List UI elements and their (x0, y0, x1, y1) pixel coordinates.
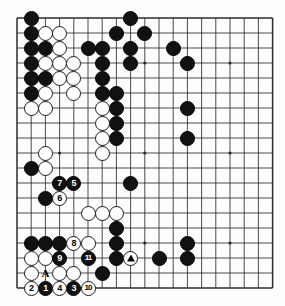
black-stone (38, 41, 53, 56)
white-stone (52, 41, 67, 56)
move-stone-11: 11 (81, 251, 96, 266)
black-stone (52, 236, 67, 251)
move-stone-7: 7 (52, 176, 67, 191)
white-stone (52, 71, 67, 86)
black-stone (180, 56, 195, 71)
black-stone (109, 221, 124, 236)
move-number-label: 11 (82, 252, 95, 265)
move-stone-4: 4 (52, 281, 67, 296)
black-stone (38, 236, 53, 251)
white-stone (66, 71, 81, 86)
point-label-a: A (38, 266, 53, 281)
black-stone (123, 41, 138, 56)
white-stone (38, 251, 53, 266)
move-stone-5: 5 (66, 176, 81, 191)
white-stone (52, 266, 67, 281)
black-stone (123, 11, 138, 26)
white-stone (38, 56, 53, 71)
black-stone (152, 251, 167, 266)
black-stone (123, 56, 138, 71)
white-stone (38, 101, 53, 116)
black-stone (24, 11, 39, 26)
black-stone (24, 86, 39, 101)
black-stone (38, 71, 53, 86)
black-stone (109, 236, 124, 251)
white-stone (38, 161, 53, 176)
white-stone (81, 236, 96, 251)
marked-white-stone (123, 251, 138, 266)
black-stone (109, 131, 124, 146)
black-stone (137, 26, 152, 41)
white-stone (95, 146, 110, 161)
move-number-label: 4 (53, 282, 66, 295)
black-stone (24, 26, 39, 41)
move-stone-1: 1 (38, 281, 53, 296)
white-stone (66, 266, 81, 281)
black-stone (95, 56, 110, 71)
move-number-label: 3 (67, 282, 80, 295)
white-stone (38, 146, 53, 161)
move-stone-9: 9 (52, 251, 67, 266)
black-stone (109, 86, 124, 101)
triangle-marker-icon (127, 255, 135, 262)
white-stone (95, 131, 110, 146)
black-stone (95, 71, 110, 86)
white-stone (66, 56, 81, 71)
white-stone (24, 266, 39, 281)
move-stone-8: 8 (66, 236, 81, 251)
move-number-label: 5 (67, 177, 80, 190)
go-board-figure: 1234567891011A (0, 0, 285, 306)
move-number-label: 9 (53, 252, 66, 265)
black-stone (95, 86, 110, 101)
move-number-label: 2 (25, 282, 38, 295)
white-stone (24, 101, 39, 116)
black-stone (81, 41, 96, 56)
white-stone (109, 206, 124, 221)
white-stone (66, 86, 81, 101)
white-stone (38, 26, 53, 41)
white-stone (95, 116, 110, 131)
move-stone-6: 6 (52, 191, 67, 206)
goban[interactable]: 1234567891011A (0, 0, 285, 306)
black-stone (180, 101, 195, 116)
black-stone (166, 41, 181, 56)
move-stone-2: 2 (24, 281, 39, 296)
white-stone (38, 86, 53, 101)
black-stone (123, 176, 138, 191)
white-stone (81, 206, 96, 221)
black-stone (24, 161, 39, 176)
stone-layer: 1234567891011A (0, 0, 285, 306)
black-stone (109, 116, 124, 131)
black-stone (38, 191, 53, 206)
black-stone (95, 266, 110, 281)
move-number-label: 6 (53, 192, 66, 205)
black-stone (180, 251, 195, 266)
black-stone (24, 56, 39, 71)
white-stone (52, 56, 67, 71)
black-stone (109, 251, 124, 266)
move-number-label: 1 (39, 282, 52, 295)
black-stone (109, 26, 124, 41)
white-stone (24, 251, 39, 266)
white-stone (95, 101, 110, 116)
black-stone (95, 41, 110, 56)
move-stone-10: 10 (81, 281, 96, 296)
black-stone (24, 41, 39, 56)
black-stone (24, 71, 39, 86)
black-stone (180, 131, 195, 146)
black-stone (109, 101, 124, 116)
white-stone (52, 26, 67, 41)
black-stone (24, 236, 39, 251)
white-stone (95, 206, 110, 221)
black-stone (180, 236, 195, 251)
move-number-label: 8 (67, 237, 80, 250)
move-stone-3: 3 (66, 281, 81, 296)
move-number-label: 10 (82, 282, 95, 295)
move-number-label: 7 (53, 177, 66, 190)
